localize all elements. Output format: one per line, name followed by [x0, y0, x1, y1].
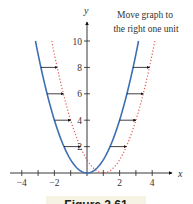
- y-tick-label: 10: [73, 37, 83, 47]
- y-tick-label: 2: [77, 142, 82, 152]
- annotation-line-1: Move graph to: [117, 10, 173, 20]
- y-tick-label: 4: [77, 116, 82, 126]
- parabola-shift-chart: −4−224246810 x y Move graph to the right…: [0, 0, 193, 204]
- annotation-line-2: the right one unit: [113, 24, 179, 34]
- axes: [10, 22, 172, 176]
- x-tick-label: 2: [117, 178, 122, 188]
- y-tick-label: 6: [77, 89, 82, 99]
- y-axis-label: y: [83, 5, 89, 16]
- x-tick-label: 4: [150, 178, 155, 188]
- figure-caption-text: Figure 2.61: [46, 199, 146, 204]
- curves: [35, 41, 154, 173]
- y-tick-label: 8: [77, 63, 82, 73]
- shift-arrows: [41, 67, 149, 146]
- x-tick-label: −2: [49, 178, 59, 188]
- figure-caption: Figure 2.61: [46, 196, 146, 204]
- x-axis-label: x: [177, 168, 183, 179]
- x-tick-label: −4: [17, 178, 27, 188]
